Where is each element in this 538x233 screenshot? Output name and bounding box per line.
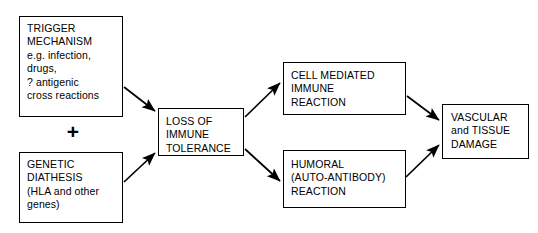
node-trigger-mechanism: TRIGGER MECHANISM e.g. infection, drugs,… xyxy=(19,16,123,117)
plus-connector-symbol: + xyxy=(60,119,86,145)
arrow-trigger-to-loss xyxy=(124,87,155,111)
node-humoral-auto-antibody-reaction: HUMORAL (AUTO-ANTIBODY) REACTION xyxy=(283,150,406,208)
node-loss-of-immune-tolerance: LOSS OF IMMUNE TOLERANCE xyxy=(158,108,244,156)
node-cell-mediated-immune-reaction: CELL MEDIATED IMMUNE REACTION xyxy=(283,62,406,115)
node-vascular-and-tissue-damage: VASCULAR and TISSUE DAMAGE xyxy=(442,104,529,159)
arrow-humoral-to-vascular xyxy=(406,145,439,177)
arrow-loss-to-cell xyxy=(245,83,280,117)
node-genetic-diathesis: GENETIC DIATHESIS (HLA and other genes) xyxy=(19,152,123,223)
arrow-cell-to-vascular xyxy=(407,96,439,120)
arrow-loss-to-humoral xyxy=(245,149,280,181)
flowchart-diagram: TRIGGER MECHANISM e.g. infection, drugs,… xyxy=(0,0,538,233)
arrow-genetic-to-loss xyxy=(124,153,155,182)
